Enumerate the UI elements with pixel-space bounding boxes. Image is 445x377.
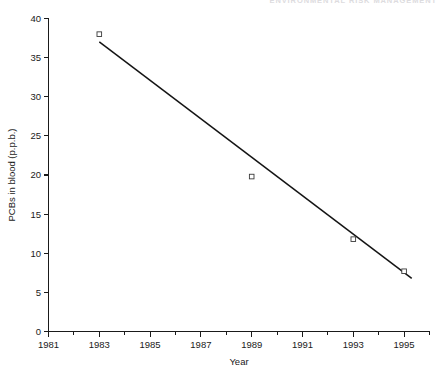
x-tick-label-1985: 1985 — [140, 339, 161, 350]
x-tick-label-1981: 1981 — [38, 339, 59, 350]
trend-line-path — [99, 42, 411, 278]
data-point-1983 — [97, 32, 102, 37]
x-tick-label-1993: 1993 — [343, 339, 364, 350]
y-tick-label-30: 30 — [30, 91, 41, 102]
y-tick-label-0: 0 — [36, 326, 41, 337]
data-point-series — [97, 32, 406, 274]
x-tick-label-1989: 1989 — [241, 339, 262, 350]
pcb-decline-scatter-chart: 0510152025303540 19811983198519871989199… — [0, 0, 445, 377]
y-tick-label-15: 15 — [30, 209, 41, 220]
data-point-1993 — [351, 237, 356, 242]
x-axis-title: Year — [229, 356, 248, 367]
data-point-1989 — [249, 174, 254, 179]
y-tick-label-35: 35 — [30, 52, 41, 63]
x-tick-label-1991: 1991 — [292, 339, 313, 350]
chart-figure: 0510152025303540 19811983198519871989199… — [0, 0, 445, 377]
y-axis-title: PCBs in blood (p.p.b.) — [6, 129, 17, 222]
y-axis-tick-labels: 0510152025303540 — [30, 13, 41, 337]
y-tick-label-5: 5 — [36, 287, 41, 298]
x-tick-label-1987: 1987 — [190, 339, 211, 350]
y-tick-label-40: 40 — [30, 13, 41, 24]
y-tick-label-10: 10 — [30, 248, 41, 259]
x-axis-tick-labels: 19811983198519871989199119931995 — [38, 339, 415, 350]
x-tick-label-1995: 1995 — [394, 339, 415, 350]
trend-line-series — [99, 42, 411, 278]
data-point-1995 — [402, 269, 407, 274]
y-tick-label-25: 25 — [30, 130, 41, 141]
y-axis-ticks — [44, 19, 49, 332]
x-tick-label-1983: 1983 — [89, 339, 110, 350]
y-tick-label-20: 20 — [30, 169, 41, 180]
